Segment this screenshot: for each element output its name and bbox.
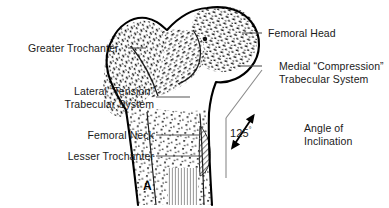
label-femoral-head: Femoral Head <box>268 27 336 39</box>
label-angle-line2: Inclination <box>290 135 370 148</box>
label-greater-trochanter: Greater Trochanter <box>28 42 119 54</box>
label-lateral-line2: Trabecular System <box>18 98 154 111</box>
angle-value-125-degrees: 125° <box>230 124 252 139</box>
fovea-marker <box>203 37 207 41</box>
label-lesser-trochanter: Lesser Trochanter <box>28 150 154 162</box>
label-femoral-neck: Femoral Neck <box>50 129 154 141</box>
figure-container: Femoral Head Medial “Compression” Trabec… <box>0 0 389 208</box>
label-medial-compression-trabecular-system: Medial “Compression” Trabecular System <box>266 60 388 85</box>
label-angle-of-inclination: Angle of Inclination <box>290 122 370 147</box>
label-lateral-tension-trabecular-system: Lateral “Tension” Trabecular System <box>18 85 154 110</box>
figure-panel-label: A <box>143 180 152 192</box>
label-medial-line1: Medial “Compression” <box>266 60 388 73</box>
angle-number: 125 <box>230 127 249 139</box>
label-angle-line1: Angle of <box>290 122 370 135</box>
medullary-striations <box>168 168 198 206</box>
label-medial-line2: Trabecular System <box>266 73 388 86</box>
label-lateral-line1: Lateral “Tension” <box>18 85 154 98</box>
degree-symbol: ° <box>249 126 252 133</box>
